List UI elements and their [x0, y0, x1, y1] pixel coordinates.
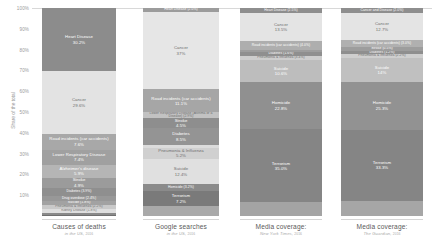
bar-segment[interactable]: Stroke 4.5% [143, 118, 219, 127]
bar-segment-label: Diabetes 8.5% [171, 131, 190, 141]
bar-segment-label: Homicide 22.8% [271, 100, 291, 110]
bar-segment[interactable]: Heart Disease 30.2% [42, 8, 116, 71]
bar-segment-label: Terrorism 33.3% [372, 160, 392, 170]
column-caption-source: in the US, [167, 231, 188, 236]
bar-segment[interactable]: Homicide 25.3% [341, 82, 423, 130]
y-axis-tick-60: 60% [20, 89, 30, 94]
column-caption-source: in the US, [65, 231, 86, 236]
bar-segment-label: Stroke 4.5% [174, 118, 189, 127]
bar-column-deaths[interactable]: Heart Disease 30.2%Cancer 29.6%Road inci… [42, 8, 116, 216]
column-caption-guardian: Media coverage:The Guardian, 2016 [327, 223, 437, 236]
bar-column-guardian[interactable]: Cancer and Disease (2.0%)Cancer 12.7%Roa… [341, 8, 423, 216]
bar-segment[interactable]: Suicide 12.4% [143, 159, 219, 185]
bar-segment-label: Drug overdose (2.4%) [61, 197, 97, 201]
bar-segment-label: Road incidents (car accidents) (4.0%) [251, 44, 311, 48]
bar-segment[interactable]: Suicide 14% [341, 58, 423, 82]
bar-segment[interactable]: Terrorism 7.2% [143, 191, 219, 206]
bar-segment[interactable]: Diabetes (3.9%) [42, 188, 116, 196]
y-axis-tick-30: 30% [20, 151, 30, 156]
y-axis-tick-80: 80% [20, 47, 30, 52]
y-axis: Share of the total 100%90%80%70%60%50%40… [0, 0, 32, 247]
bar-segment[interactable]: Terrorism (0.01%) [42, 215, 116, 216]
bar-column-nyt[interactable]: Heart Disease (2.5%)Cancer 13.5%Road inc… [240, 8, 322, 216]
bar-segment-label: Cancer 37% [173, 45, 189, 55]
y-axis-tick-70: 70% [20, 68, 30, 73]
column-caption-title: Media coverage: [226, 223, 336, 230]
column-caption-title: Google searches [129, 223, 233, 230]
column-caption-source: New York Times, [260, 231, 294, 236]
bar-segment[interactable]: Diabetes 8.5% [143, 128, 219, 146]
bar-segment[interactable] [240, 202, 322, 216]
column-caption-source: The Guardian, [363, 231, 392, 236]
bar-segment-label: Terrorism 35.0% [271, 161, 291, 171]
bar-segment-label: Pneumonia & Influenza 5.2% [157, 148, 204, 158]
bar-segment[interactable]: Alzheimer's disease 5.9% [42, 165, 116, 177]
bar-column-google[interactable]: Heart Disease (2.0%)Cancer 37%Road incid… [143, 8, 219, 216]
column-caption-title: Media coverage: [327, 223, 437, 230]
column-caption-year: 2016 [294, 232, 302, 236]
column-caption-google: Google searchesin the US, 2016 [129, 223, 233, 236]
y-axis-tick-10: 10% [20, 193, 30, 198]
bar-segment-label: Cancer 13.5% [273, 22, 289, 32]
column-underline [42, 219, 116, 220]
bar-segment-label: Stroke 4.9% [72, 178, 87, 188]
bar-segment[interactable]: Road incidents (car accidents) (4.0%) [240, 41, 322, 49]
bar-segment-label: Homicide (3.2%) [167, 186, 195, 190]
bar-segment[interactable]: Cancer 12.7% [341, 13, 423, 40]
y-axis-tick-90: 90% [20, 26, 30, 31]
stacked-bar-chart: Share of the total 100%90%80%70%60%50%40… [0, 0, 446, 247]
bar-segment[interactable]: Suicide 10.6% [240, 60, 322, 82]
column-underline [341, 219, 423, 220]
bar-segment-label: Heart Disease 30.2% [64, 34, 94, 44]
bar-segment-label: Pneumonia & Influenza (2.2%) [54, 205, 103, 209]
bar-segment[interactable]: Pneumonia & Influenza 5.2% [143, 148, 219, 159]
column-underline [240, 219, 322, 220]
column-caption-deaths: Causes of deathsin the US, 2016 [28, 223, 130, 236]
column-caption-subtitle: in the US, 2016 [129, 231, 233, 236]
bar-segment[interactable]: Homicide (3.2%) [143, 184, 219, 191]
column-caption-year: 2016 [187, 232, 195, 236]
bar-segment[interactable]: Cancer 29.6% [42, 71, 116, 133]
y-axis-tick-40: 40% [20, 130, 30, 135]
bar-segment-label: Homicide 25.3% [372, 100, 392, 110]
bar-segment-label: Cancer 29.6% [71, 97, 87, 107]
bar-segment-label: Lower Respiratory Disease 7.4% [52, 152, 107, 162]
column-caption-subtitle: The Guardian, 2016 [327, 231, 437, 236]
column-underline [143, 219, 219, 220]
bar-segment[interactable]: Road incidents (car accidents) 11.1% [143, 89, 219, 112]
y-axis-title: Share of the total [11, 81, 16, 141]
bar-segment[interactable] [143, 206, 219, 216]
bar-segment[interactable]: Road incidents (car accidents) 7.6% [42, 134, 116, 150]
column-caption-subtitle: in the US, 2016 [28, 231, 130, 236]
bar-segment[interactable]: Stroke 4.9% [42, 178, 116, 188]
bar-segment-label: Cancer 12.7% [374, 21, 390, 31]
bar-segment-label: Diabetes (3.9%) [65, 190, 92, 194]
bar-segment[interactable] [341, 201, 423, 216]
column-caption-nyt: Media coverage:New York Times, 2016 [226, 223, 336, 236]
bar-segment-label: Road incidents (car accidents) 7.6% [48, 136, 109, 146]
bar-segment[interactable]: Road incidents (car accidents) (3.0%) [341, 40, 423, 47]
bar-segment-label: Alzheimer's disease 5.9% [58, 166, 99, 176]
column-caption-year: 2016 [85, 232, 93, 236]
bar-segment[interactable]: Homicide 22.8% [240, 82, 322, 129]
y-axis-tick-100: 100% [17, 6, 29, 11]
bar-segment[interactable]: Cancer 13.5% [240, 13, 322, 41]
bar-segment-label: Road incidents (car accidents) (3.0%) [352, 42, 412, 46]
column-caption-title: Causes of deaths [28, 223, 130, 230]
column-caption-subtitle: New York Times, 2016 [226, 231, 336, 236]
bar-segment-label: Suicide 10.6% [273, 66, 289, 76]
bar-segment-label: Suicide 12.4% [173, 166, 189, 176]
bar-segment-label: Terrorism 7.2% [171, 193, 191, 203]
bar-segment[interactable]: Terrorism 33.3% [341, 130, 423, 202]
bar-segment[interactable]: Terrorism 35.0% [240, 129, 322, 202]
bar-segment-label: Heart Disease (2.5%) [263, 9, 298, 13]
bar-segment[interactable]: Lower Respiratory Disease 7.4% [42, 150, 116, 166]
y-axis-tick-20: 20% [20, 172, 30, 177]
column-caption-year: 2016 [393, 232, 401, 236]
bar-segment-label: Road incidents (car accidents) 11.1% [150, 96, 211, 106]
bar-segment-label: Cancer and Disease (2.0%) [360, 9, 405, 13]
bar-segment-label: Suicide 14% [374, 65, 390, 75]
bar-segment[interactable]: Cancer 37% [143, 12, 219, 89]
y-axis-tick-50: 50% [20, 110, 30, 115]
